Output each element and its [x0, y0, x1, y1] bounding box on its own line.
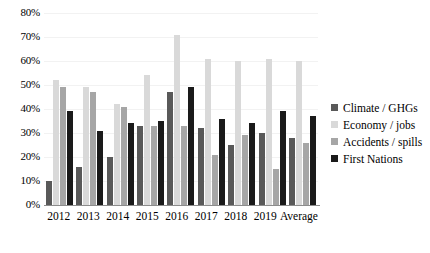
bar[interactable]	[303, 143, 309, 205]
bar[interactable]	[259, 133, 265, 205]
bar[interactable]	[97, 131, 103, 205]
bar[interactable]	[121, 107, 127, 205]
legend-item[interactable]: Economy / jobs	[331, 117, 430, 132]
bar-group	[135, 13, 165, 205]
bar[interactable]	[128, 123, 134, 205]
bar[interactable]	[53, 80, 59, 205]
bar[interactable]	[114, 104, 120, 205]
bar-group	[44, 13, 74, 205]
legend-item-label: Accidents / spills	[343, 136, 422, 148]
legend-item[interactable]: First Nations	[331, 151, 430, 166]
bar[interactable]	[60, 87, 66, 205]
bar[interactable]	[107, 157, 113, 205]
bar[interactable]	[158, 121, 164, 205]
bar[interactable]	[219, 119, 225, 205]
legend-swatch-icon	[331, 155, 338, 162]
y-axis-tick-label: 30%	[0, 127, 40, 138]
y-axis: 0%10%20%30%40%50%60%70%80%	[0, 0, 40, 253]
bar[interactable]	[273, 169, 279, 205]
y-axis-tick-label: 70%	[0, 31, 40, 42]
bar[interactable]	[289, 138, 295, 205]
bar[interactable]	[205, 59, 211, 205]
bar[interactable]	[296, 61, 302, 205]
bar[interactable]	[90, 92, 96, 205]
x-axis-tick-label: Average	[280, 207, 318, 227]
x-axis-tick-label: 2016	[162, 207, 191, 227]
legend-item-label: Climate / GHGs	[343, 102, 418, 114]
bar[interactable]	[83, 87, 89, 205]
legend-item-label: First Nations	[343, 153, 403, 165]
bar-groups	[44, 13, 318, 205]
x-axis-tick-label: 2013	[73, 207, 102, 227]
bar[interactable]	[181, 126, 187, 205]
bar-group	[288, 13, 318, 205]
bar-group	[227, 13, 257, 205]
y-axis-tick-label: 20%	[0, 151, 40, 162]
x-axis: 20122013201420152016201720182019Average	[44, 207, 318, 227]
bar[interactable]	[144, 75, 150, 205]
bar[interactable]	[310, 116, 316, 205]
bar-group	[74, 13, 104, 205]
bar[interactable]	[67, 111, 73, 205]
bar[interactable]	[235, 61, 241, 205]
bar[interactable]	[242, 135, 248, 205]
x-axis-tick-label: 2017	[191, 207, 220, 227]
bar-group	[257, 13, 287, 205]
bar[interactable]	[188, 87, 194, 205]
bar[interactable]	[167, 92, 173, 205]
bar[interactable]	[137, 126, 143, 205]
bar-group	[105, 13, 135, 205]
bar[interactable]	[280, 111, 286, 205]
bar-chart: 0%10%20%30%40%50%60%70%80% 2012201320142…	[0, 0, 430, 253]
legend: Climate / GHGsEconomy / jobsAccidents / …	[331, 100, 430, 168]
x-axis-tick-label: 2015	[132, 207, 161, 227]
y-axis-tick-label: 10%	[0, 175, 40, 186]
x-axis-tick-label: 2012	[44, 207, 73, 227]
bar-group	[166, 13, 196, 205]
bar[interactable]	[249, 123, 255, 205]
legend-item[interactable]: Climate / GHGs	[331, 100, 430, 115]
bar[interactable]	[212, 155, 218, 205]
bar[interactable]	[174, 35, 180, 205]
bar-group	[196, 13, 226, 205]
legend-swatch-icon	[331, 104, 338, 111]
bar[interactable]	[151, 126, 157, 205]
x-axis-line	[44, 205, 320, 206]
x-axis-tick-label: 2019	[250, 207, 279, 227]
y-axis-tick-label: 60%	[0, 55, 40, 66]
bar[interactable]	[76, 167, 82, 205]
bar[interactable]	[228, 145, 234, 205]
legend-item-label: Economy / jobs	[343, 119, 415, 131]
y-axis-tick-label: 50%	[0, 79, 40, 90]
legend-swatch-icon	[331, 121, 338, 128]
legend-item[interactable]: Accidents / spills	[331, 134, 430, 149]
legend-swatch-icon	[331, 138, 338, 145]
bar[interactable]	[198, 128, 204, 205]
x-axis-tick-label: 2014	[103, 207, 132, 227]
y-axis-tick-label: 40%	[0, 103, 40, 114]
bar[interactable]	[46, 181, 52, 205]
y-axis-tick-label: 0%	[0, 199, 40, 210]
x-axis-tick-label: 2018	[221, 207, 250, 227]
bar[interactable]	[266, 59, 272, 205]
y-axis-tick-label: 80%	[0, 7, 40, 18]
plot-area	[44, 13, 318, 205]
